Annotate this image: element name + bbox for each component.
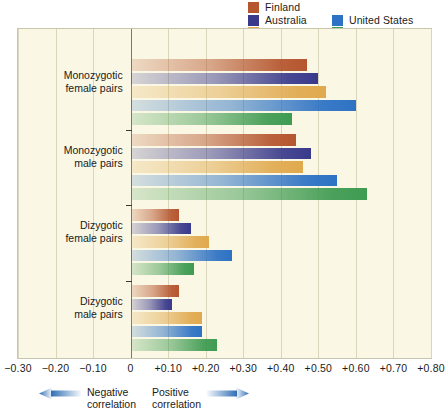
bar-sweden bbox=[131, 236, 210, 248]
x-tick-label: +0.40 bbox=[267, 362, 295, 374]
x-tick-label: +0.80 bbox=[417, 362, 445, 374]
bar-fill bbox=[131, 73, 319, 85]
legend-swatch-icon bbox=[248, 15, 259, 26]
bar-finland bbox=[131, 209, 180, 221]
bar-finland bbox=[131, 134, 296, 146]
category-label-line: Dizygotic bbox=[74, 295, 122, 308]
x-axis: −0.30−0.20−0.100+0.10+0.20+0.30+0.40+0.5… bbox=[0, 362, 448, 382]
category-label-line: male pairs bbox=[74, 308, 122, 321]
category-label-line: male pairs bbox=[64, 157, 123, 170]
negative-correlation-label: Negativecorrelation bbox=[87, 386, 136, 410]
axis-direction-annotations: NegativecorrelationPositivecorrelation bbox=[0, 386, 448, 419]
bar-finland bbox=[131, 285, 180, 297]
x-tick-label: −0.10 bbox=[79, 362, 107, 374]
bar-fill bbox=[131, 113, 292, 125]
category-label: Dizygoticmale pairs bbox=[74, 295, 122, 320]
positive-correlation-label-line: Positive bbox=[152, 386, 201, 398]
bar-fill bbox=[131, 285, 180, 297]
bar-united-states bbox=[131, 326, 202, 338]
category-label-line: Monozygotic bbox=[64, 69, 123, 82]
bar-britain bbox=[131, 113, 292, 125]
negative-correlation-label-line: Negative bbox=[87, 386, 136, 398]
category-label: Dizygoticfemale pairs bbox=[65, 219, 122, 244]
bar-sweden bbox=[131, 86, 326, 98]
bar-sweden bbox=[131, 161, 304, 173]
legend-swatch-icon bbox=[248, 2, 259, 13]
bar-australia bbox=[131, 223, 191, 235]
category-label: Monozygoticmale pairs bbox=[64, 144, 123, 169]
group-separator-tick bbox=[126, 130, 132, 131]
legend-label: Australia bbox=[265, 15, 307, 26]
x-tick-label: +0.60 bbox=[342, 362, 370, 374]
bar-australia bbox=[131, 148, 311, 160]
legend-label: United States bbox=[349, 15, 413, 26]
group-separator-tick bbox=[126, 281, 132, 282]
bar-fill bbox=[131, 223, 191, 235]
x-tick-label: 0 bbox=[128, 362, 134, 374]
x-tick-label: +0.20 bbox=[192, 362, 220, 374]
bar-fill bbox=[131, 326, 202, 338]
bar-fill bbox=[131, 339, 217, 351]
x-tick-label: +0.30 bbox=[229, 362, 257, 374]
bar-britain bbox=[131, 263, 195, 275]
bar-fill bbox=[131, 175, 338, 187]
group-separator-tick bbox=[126, 205, 132, 206]
legend-swatch-icon bbox=[332, 15, 343, 26]
bar-united-states bbox=[131, 100, 356, 112]
bar-fill bbox=[131, 236, 210, 248]
bar-united-states bbox=[131, 175, 338, 187]
bar-australia bbox=[131, 73, 319, 85]
legend-label: Finland bbox=[265, 2, 300, 13]
x-tick-label: +0.10 bbox=[154, 362, 182, 374]
negative-correlation-annotation: Negativecorrelation bbox=[39, 386, 136, 410]
arrow-right-icon bbox=[207, 387, 249, 400]
bar-fill bbox=[131, 263, 195, 275]
bar-united-states bbox=[131, 250, 232, 262]
x-tick-label: +0.70 bbox=[380, 362, 408, 374]
bar-britain bbox=[131, 188, 368, 200]
bar-finland bbox=[131, 59, 307, 71]
bar-fill bbox=[131, 250, 232, 262]
bar-fill bbox=[131, 299, 172, 311]
bar-britain bbox=[131, 339, 217, 351]
bar-fill bbox=[131, 100, 356, 112]
negative-correlation-label-line: correlation bbox=[87, 398, 136, 410]
bar-fill bbox=[131, 134, 296, 146]
plot-area: Monozygoticfemale pairsMonozygoticmale p… bbox=[17, 28, 432, 359]
arrow-left-icon bbox=[39, 387, 81, 400]
legend-item-australia: Australia bbox=[248, 15, 307, 26]
category-label-line: female pairs bbox=[64, 82, 123, 95]
category-label-line: female pairs bbox=[65, 232, 122, 245]
bar-fill bbox=[131, 59, 307, 71]
x-tick-label: −0.30 bbox=[4, 362, 32, 374]
bar-fill bbox=[131, 86, 326, 98]
positive-correlation-annotation: Positivecorrelation bbox=[152, 386, 249, 410]
bar-fill bbox=[131, 312, 202, 324]
category-label-line: Monozygotic bbox=[64, 144, 123, 157]
legend-item-united-states: United States bbox=[332, 15, 413, 26]
positive-correlation-label: Positivecorrelation bbox=[152, 386, 201, 410]
bar-australia bbox=[131, 299, 172, 311]
x-tick-label: +0.50 bbox=[305, 362, 333, 374]
bar-fill bbox=[131, 188, 368, 200]
category-label: Monozygoticfemale pairs bbox=[64, 69, 123, 94]
bar-fill bbox=[131, 148, 311, 160]
bar-sweden bbox=[131, 312, 202, 324]
x-tick-label: −0.20 bbox=[42, 362, 70, 374]
gridline bbox=[431, 29, 432, 358]
positive-correlation-label-line: correlation bbox=[152, 398, 201, 410]
bar-fill bbox=[131, 161, 304, 173]
category-label-line: Dizygotic bbox=[65, 219, 122, 232]
legend-item-finland: Finland bbox=[248, 2, 300, 13]
bar-fill bbox=[131, 209, 180, 221]
